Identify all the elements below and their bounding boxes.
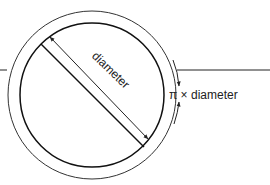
circumference-arrow-top <box>173 60 179 86</box>
wheel-diagram: diameter π × diameter <box>0 0 270 185</box>
circumference-arrow-bottom <box>174 102 179 124</box>
circumference-label: π × diameter <box>169 88 238 102</box>
